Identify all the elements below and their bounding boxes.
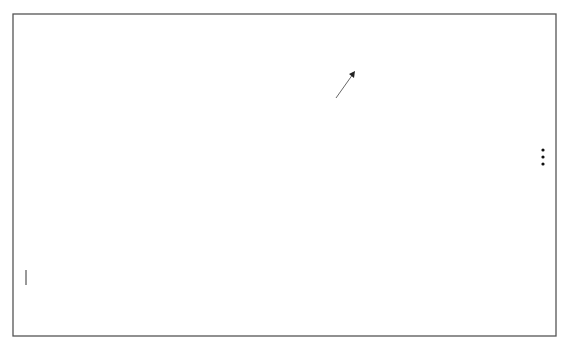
annotation-arrow-line bbox=[336, 74, 353, 98]
figure-frame bbox=[13, 14, 556, 336]
seal-legend-dots-icon bbox=[541, 148, 544, 165]
annotation-arrow-head bbox=[349, 71, 355, 78]
chart-canvas bbox=[0, 0, 576, 349]
bottom-panel-krill-seals bbox=[26, 148, 545, 285]
top-panel-dive-depth bbox=[336, 71, 355, 98]
